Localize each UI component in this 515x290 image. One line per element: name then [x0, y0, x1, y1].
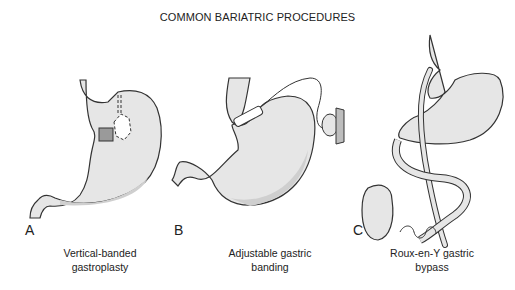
panel-a-letter: A — [25, 222, 34, 238]
panel-c-caption-line2: bypass — [362, 260, 502, 274]
panel-b-caption-line1: Adjustable gastric — [200, 246, 340, 260]
panel-a-stomach — [30, 80, 161, 218]
panel-b-caption-line2: banding — [200, 260, 340, 274]
panel-a-caption-line1: Vertical-banded — [30, 246, 170, 260]
panel-c-caption: Roux-en-Y gastric bypass — [362, 246, 502, 274]
panel-c-letter: C — [353, 222, 363, 238]
panel-b-stomach — [172, 78, 344, 206]
panel-a-caption-line2: gastroplasty — [30, 260, 170, 274]
panel-b-caption: Adjustable gastric banding — [200, 246, 340, 274]
panel-c-caption-line1: Roux-en-Y gastric — [362, 246, 502, 260]
panel-b-letter: B — [174, 222, 183, 238]
panel-a-caption: Vertical-banded gastroplasty — [30, 246, 170, 274]
panel-c-stomach — [362, 35, 503, 245]
